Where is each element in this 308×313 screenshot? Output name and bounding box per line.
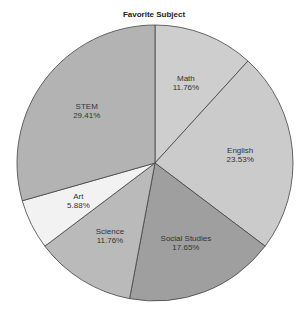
pie-chart: Math11.76%English23.53%Social Studies17.… xyxy=(0,0,308,313)
slice-label: Art xyxy=(73,192,84,201)
slice-percent: 23.53% xyxy=(227,155,254,164)
slice-label: English xyxy=(227,146,253,155)
slice-percent: 17.65% xyxy=(172,243,199,252)
slice-percent: 11.76% xyxy=(97,236,124,245)
slice-label: Social Studies xyxy=(161,234,212,243)
slice-label: STEM xyxy=(76,102,99,111)
slice-label: Math xyxy=(177,74,195,83)
slice-percent: 5.88% xyxy=(67,201,90,210)
slice-percent: 29.41% xyxy=(73,111,100,120)
slice-label: Science xyxy=(96,227,125,236)
slice-percent: 11.76% xyxy=(173,83,200,92)
